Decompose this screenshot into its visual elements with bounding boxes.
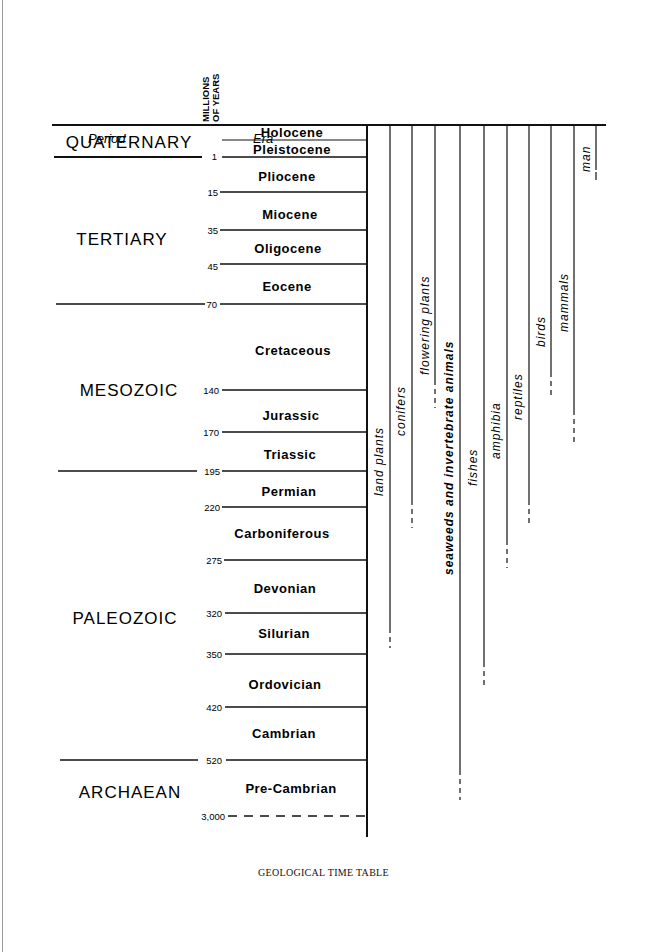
era-name: Pliocene xyxy=(258,169,315,184)
tick-label: 220 xyxy=(204,502,220,513)
era-name: Pre-Cambrian xyxy=(245,781,336,796)
life-label: amphibia xyxy=(489,402,503,459)
life-label: conifers xyxy=(394,386,408,436)
era-name: Miocene xyxy=(262,207,318,222)
geological-time-table: Period MILLIONS OF YEARS Era QUATERNARY … xyxy=(0,0,647,952)
life-label: fishes xyxy=(466,449,480,486)
era-name: Triassic xyxy=(264,447,316,462)
period-name: PALEOZOIC xyxy=(72,609,177,628)
era-name: Devonian xyxy=(254,581,317,596)
era-name: Oligocene xyxy=(254,241,321,256)
tick-label: 275 xyxy=(206,555,222,566)
life-label: man xyxy=(579,146,593,172)
period-name: MESOZOIC xyxy=(80,381,179,400)
era-name: Holocene xyxy=(261,125,324,140)
period-name: QUATERNARY xyxy=(66,133,193,152)
life-label: seaweeds and invertebrate animals xyxy=(442,341,456,575)
life-label: reptiles xyxy=(511,373,525,420)
tick-label: 140 xyxy=(203,385,219,396)
era-name: Cambrian xyxy=(252,726,316,741)
tick-label: 45 xyxy=(207,261,218,272)
era-name: Jurassic xyxy=(263,408,320,423)
tick-label: 70 xyxy=(206,299,217,310)
tick-label: 520 xyxy=(206,755,222,766)
tick-label: 35 xyxy=(207,225,218,236)
life-label: mammals xyxy=(557,273,571,332)
tick-label: 1 xyxy=(212,151,217,162)
era-name: Cretaceous xyxy=(255,343,331,358)
tick-label: 15 xyxy=(207,187,218,198)
period-name: ARCHAEAN xyxy=(79,783,181,802)
life-label: land plants xyxy=(372,427,386,496)
era-name: Eocene xyxy=(262,279,311,294)
tick-label: 350 xyxy=(206,649,222,660)
era-name: Carboniferous xyxy=(234,526,329,541)
period-name: TERTIARY xyxy=(76,230,167,249)
life-label: birds xyxy=(534,316,548,347)
era-name: Ordovician xyxy=(249,677,322,692)
era-name: Pleistocene xyxy=(253,142,331,157)
life-label: flowering plants xyxy=(418,276,432,375)
era-name: Silurian xyxy=(258,626,310,641)
years-header-line2: OF YEARS xyxy=(210,74,221,122)
tick-label: 420 xyxy=(206,702,222,713)
tick-label: 3,000 xyxy=(201,811,225,822)
tick-label: 320 xyxy=(206,608,222,619)
figure-caption: GEOLOGICAL TIME TABLE xyxy=(0,867,647,878)
era-name: Permian xyxy=(262,484,317,499)
tick-label: 195 xyxy=(204,466,220,477)
tick-label: 170 xyxy=(203,427,219,438)
